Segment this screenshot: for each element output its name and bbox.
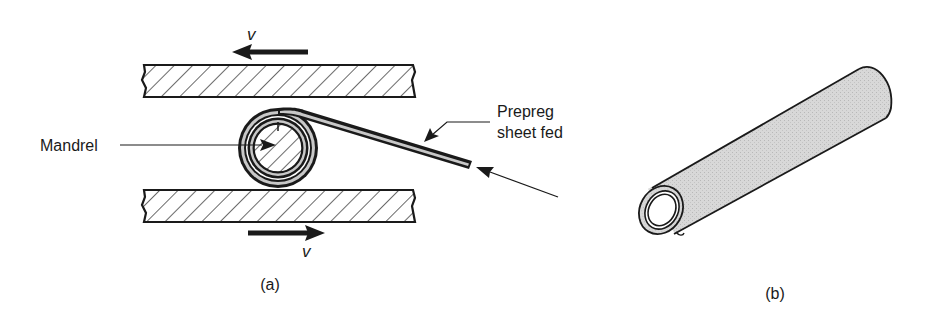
- prepreg-label-line2: sheet fed: [497, 124, 563, 141]
- velocity-label-bottom: v: [302, 242, 312, 261]
- velocity-label-top: v: [247, 25, 257, 44]
- upper-plate: [142, 65, 415, 97]
- caption-b: (b): [765, 285, 785, 302]
- mandrel-label: Mandrel: [40, 137, 98, 154]
- velocity-arrow-bottom: [248, 225, 325, 241]
- velocity-arrow-top: [232, 44, 308, 60]
- panel-b: (b): [630, 67, 891, 302]
- lower-plate: [142, 190, 415, 222]
- panel-a: v v: [40, 25, 563, 293]
- feed-direction-arrow: [476, 167, 558, 197]
- prepreg-label-line1: Prepreg: [497, 103, 554, 120]
- roll-wrapping-diagram: v v: [0, 0, 932, 311]
- diagram-svg: v v: [0, 0, 932, 311]
- prepreg-leader: [424, 122, 490, 142]
- caption-a: (a): [260, 276, 280, 293]
- rolled-tube: [630, 67, 891, 242]
